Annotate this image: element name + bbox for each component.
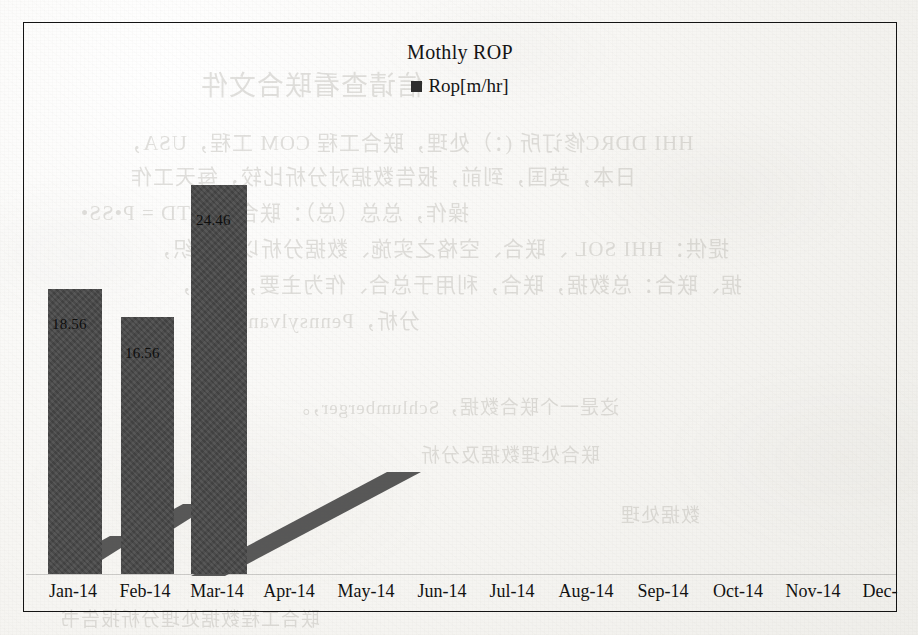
category-label-apr-14: Apr-14 [252, 581, 326, 602]
bar-value-label: 16.56 [125, 345, 160, 362]
category-label-jun-14: Jun-14 [405, 581, 479, 602]
category-label-dec-14: Dec-14 [851, 581, 898, 602]
category-label-oct-14: Oct-14 [701, 581, 775, 602]
plot-area: 18.56 16.56 24.46 Jan-14 Feb-14 Mar-14 A… [24, 23, 898, 613]
category-label-sep-14: Sep-14 [625, 581, 701, 602]
bar-value-label: 24.46 [196, 212, 231, 229]
category-label-nov-14: Nov-14 [774, 581, 852, 602]
category-label-may-14: May-14 [327, 581, 405, 602]
chart-plot-frame: Mothly ROP Rop[m/hr] 18.56 16.56 24.46 J… [23, 22, 897, 612]
category-label-jan-14: Jan-14 [36, 581, 110, 602]
bar-mar-14[interactable] [191, 185, 247, 574]
bar-value-label: 18.56 [52, 316, 87, 333]
category-label-mar-14: Mar-14 [180, 581, 254, 602]
category-label-feb-14: Feb-14 [108, 581, 182, 602]
chart-screenshot: 信请查看联合文件 HHI DDRC修订所 (：）处理，联合工程 COM 工程，U… [0, 0, 918, 635]
x-axis-line [26, 574, 896, 575]
category-label-aug-14: Aug-14 [547, 581, 625, 602]
category-label-jul-14: Jul-14 [476, 581, 548, 602]
